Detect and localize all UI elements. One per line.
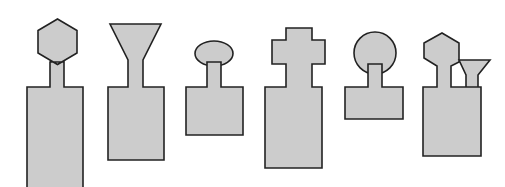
shape-row-diagram: Row of six stylized tool silhouettes <box>0 0 505 187</box>
shape-cross-head-tall-body <box>265 28 325 168</box>
figure-canvas: Row of six stylized tool silhouettes <box>0 0 505 187</box>
